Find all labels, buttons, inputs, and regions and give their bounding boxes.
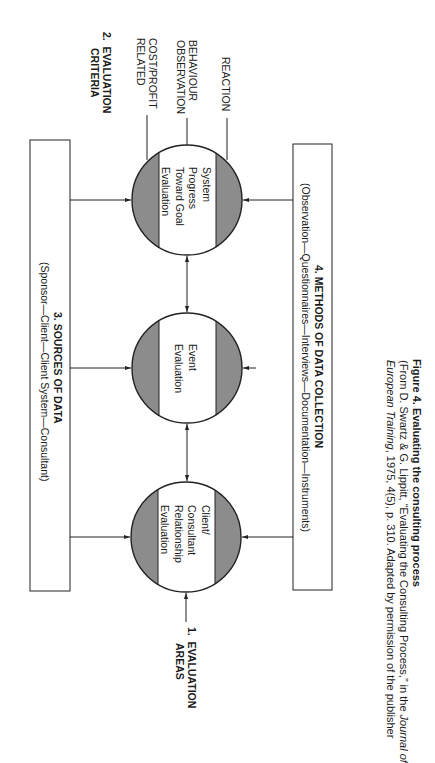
circle-label-line: Evaluation	[158, 505, 172, 563]
circle-label-line: Toward Goal	[173, 167, 187, 226]
evaluation-areas-heading: 1. EVALUATION AREAS	[174, 627, 198, 708]
circle-label-line: Evaluation	[172, 344, 186, 393]
circle-label-line: Consultant	[185, 505, 199, 563]
caption-line3: European Training, 1975, 4(5), p. 310. A…	[384, 360, 397, 763]
circle-label-line: Event	[186, 344, 200, 393]
caption-citation-rest: , 1975, 4(5), p. 310. Adapted by permiss…	[385, 450, 397, 739]
criteria-item-cost-profit: COST/PROFIT RELATED	[135, 38, 159, 109]
criteria-item-behaviour: BEHAVIOUR OBSERVATION	[175, 40, 199, 114]
methods-title: 4. METHODS OF DATA COLLECTION	[312, 183, 325, 532]
methods-of-data-collection-text: 4. METHODS OF DATA COLLECTION (Observati…	[299, 183, 325, 532]
criteria-number: 2.	[101, 32, 113, 41]
areas-number: 1.	[186, 627, 198, 636]
circle-system-progress-label: System Progress Toward Goal Evaluation	[159, 167, 213, 226]
sources-of-data-text: 3. SOURCES OF DATA (Sponsor—Client—Clien…	[38, 262, 64, 481]
circle-label-line: Client/	[199, 505, 213, 563]
criteria-label-line2: CRITERIA	[89, 32, 101, 113]
circle-label-line: Evaluation	[159, 167, 173, 226]
areas-label-line1: EVALUATION	[186, 642, 198, 709]
caption-title: Figure 4. Evaluating the consulting proc…	[410, 359, 423, 763]
caption-line2: (From D. Swartz & G. Lippitt, “Evaluatin…	[397, 360, 410, 763]
circle-client-consultant-label: Client/ Consultant Relationship Evaluati…	[158, 505, 212, 563]
criteria-item-reaction: REACTION	[220, 57, 232, 111]
circle-label-line: Progress	[186, 167, 200, 226]
circle-event-evaluation-label: Event Evaluation	[172, 344, 199, 393]
criteria-label-line1: EVALUATION	[101, 47, 113, 114]
areas-label-line2: AREAS	[174, 627, 186, 708]
circle-label-line: Relationship	[172, 505, 186, 563]
sources-of-data-subtitle: (Sponsor—Client—Client System—Consultant…	[38, 262, 51, 481]
criteria-item-line: REACTION	[220, 57, 232, 111]
criteria-item-line: RELATED	[135, 38, 147, 109]
caption-journal-part2: European Training	[385, 360, 397, 450]
criteria-item-line: OBSERVATION	[175, 40, 187, 114]
sources-of-data-title: 3. SOURCES OF DATA	[51, 262, 64, 481]
figure-caption: Figure 4. Evaluating the consulting proc…	[384, 360, 423, 763]
criteria-item-line: BEHAVIOUR	[187, 40, 199, 114]
caption-citation: (From D. Swartz & G. Lippitt, “Evaluatin…	[398, 360, 410, 715]
circle-label-line: System	[200, 167, 214, 226]
evaluation-criteria-heading: 2. EVALUATION CRITERIA	[89, 32, 113, 113]
caption-journal-part1: Journal of	[398, 715, 410, 763]
criteria-item-line: COST/PROFIT	[147, 38, 159, 109]
methods-subtitle: (Observation—Questionnaires—Interviews—D…	[299, 183, 312, 532]
